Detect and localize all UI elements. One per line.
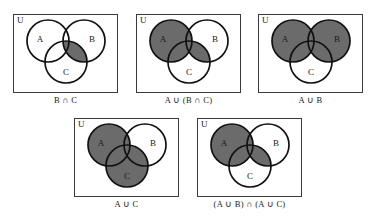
- venn-panel-a-union-c: U A B C A ∪ C: [74, 118, 179, 210]
- set-label-c: C: [124, 171, 130, 181]
- universe-box: U A B C: [13, 14, 118, 93]
- set-label-b: B: [273, 138, 279, 148]
- universe-label: U: [17, 15, 24, 26]
- universe-box: U A B C: [74, 118, 179, 197]
- panel-caption: (A ∪ B) ∩ (A ∪ C): [197, 199, 302, 210]
- panel-caption: B ∩ C: [13, 95, 118, 106]
- set-label-a: A: [282, 34, 289, 44]
- venn-panel-a-union-b-int-a-union-c: U A B C (A ∪ B) ∩ (A ∪ C): [197, 118, 302, 210]
- venn-diagram-b-int-c: A B C: [14, 15, 117, 92]
- universe-label: U: [78, 119, 85, 130]
- set-label-a: A: [160, 34, 167, 44]
- set-label-b: B: [150, 138, 156, 148]
- panel-caption: A ∪ C: [74, 199, 179, 210]
- set-label-a: A: [37, 34, 44, 44]
- universe-label: U: [201, 119, 208, 130]
- venn-panel-a-union-b-int-c: U A B C A ∪ (B ∩ C): [136, 14, 241, 106]
- venn-diagram-a-union-c: A B C: [75, 119, 178, 196]
- set-label-b: B: [89, 34, 95, 44]
- panel-caption: A ∪ B: [258, 95, 363, 106]
- set-label-c: C: [186, 67, 192, 77]
- venn-diagram-a-union-b-int-a-union-c: A B C: [198, 119, 301, 196]
- set-label-b: B: [334, 34, 340, 44]
- universe-box: U A B C: [258, 14, 363, 93]
- set-label-c: C: [63, 67, 69, 77]
- set-label-b: B: [212, 34, 218, 44]
- venn-diagram-a-union-b-int-c: A B C: [137, 15, 240, 92]
- set-label-a: A: [98, 138, 105, 148]
- set-label-a: A: [221, 138, 228, 148]
- universe-label: U: [262, 15, 269, 26]
- universe-label: U: [140, 15, 147, 26]
- panel-caption: A ∪ (B ∩ C): [136, 95, 241, 106]
- set-label-c: C: [308, 67, 314, 77]
- universe-box: U A B C: [136, 14, 241, 93]
- venn-diagram-a-union-b: A B C: [259, 15, 362, 92]
- universe-box: U A B C: [197, 118, 302, 197]
- venn-panel-a-union-b: U A B C A ∪ B: [258, 14, 363, 106]
- set-label-c: C: [247, 171, 253, 181]
- venn-panel-b-int-c: U A B C B ∩ C: [13, 14, 118, 106]
